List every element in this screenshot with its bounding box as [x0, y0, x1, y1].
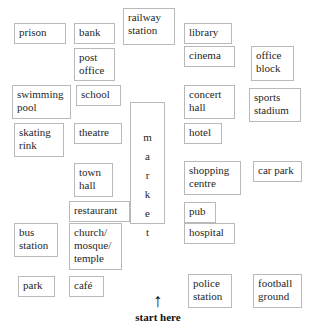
market-letter: k [135, 185, 160, 204]
place-box: shopping centre [184, 161, 241, 195]
place-box: bank [74, 23, 115, 44]
place-box: railway station [123, 8, 175, 45]
town-map-diagram: prisonbankrailway stationlibrarypost off… [0, 0, 316, 328]
start-here-label: start here [106, 311, 210, 324]
place-box: cinema [184, 46, 235, 67]
place-box: hotel [184, 123, 222, 144]
place-box: theatre [74, 123, 122, 144]
market-letter: e [135, 204, 160, 223]
place-box: skating rink [14, 123, 64, 157]
market-letter: m [135, 128, 160, 147]
place-box: football ground [253, 274, 302, 308]
market-letter: t [135, 223, 160, 242]
place-box: post office [74, 48, 115, 81]
place-box: concert hall [184, 85, 235, 119]
up-arrow-icon: ↑ [106, 291, 210, 310]
place-box: church/ mosque/ temple [69, 223, 122, 270]
place-box: town hall [74, 163, 113, 197]
market-letter: r [135, 166, 160, 185]
place-box: restaurant [69, 201, 130, 222]
cropped-text-artifact [8, 0, 208, 2]
market-letter: a [135, 147, 160, 166]
place-box: hospital [184, 223, 235, 244]
place-box: park [18, 276, 55, 297]
start-here-marker: ↑ start here [106, 291, 210, 324]
place-box: sports stadium [249, 88, 301, 122]
market-box: market [130, 102, 165, 224]
place-box: café [69, 276, 104, 297]
place-box: bus station [14, 223, 58, 257]
place-box: school [76, 85, 121, 106]
place-box: library [184, 23, 232, 44]
place-box: car park [253, 161, 302, 182]
place-box: office block [251, 46, 294, 81]
place-box: pub [184, 202, 216, 223]
place-box: swimming pool [12, 85, 71, 119]
place-box: prison [14, 23, 66, 44]
market-letters: market [135, 128, 160, 242]
